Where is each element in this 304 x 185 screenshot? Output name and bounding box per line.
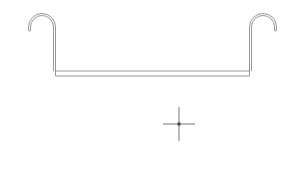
canvas-background [0, 0, 304, 185]
drawing-canvas[interactable] [0, 0, 304, 185]
